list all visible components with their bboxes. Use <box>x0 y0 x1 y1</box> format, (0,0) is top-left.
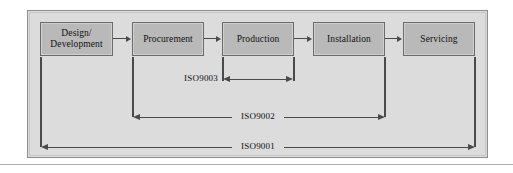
dimension-label-iso9001: ISO9001 <box>232 140 284 152</box>
process-box-design-development: Design/ Development <box>40 22 113 56</box>
process-label-production: Production <box>237 34 280 45</box>
process-label-line2: Development <box>50 39 102 50</box>
process-label-line1: Design/ <box>50 28 102 39</box>
process-label-servicing: Servicing <box>420 34 457 45</box>
connector-arrow-2 <box>204 34 222 43</box>
figure-bottom-rule <box>0 164 513 165</box>
dimension-iso9002: ISO9002 <box>132 111 386 123</box>
process-label-installation: Installation <box>327 34 371 45</box>
leader-line-design-left <box>40 57 42 147</box>
process-box-production: Production <box>222 22 294 56</box>
connector-arrow-4 <box>385 34 403 43</box>
leader-line-servicing-right <box>474 57 476 147</box>
diagram-panel: Design/ Development Procurement Producti… <box>27 10 488 158</box>
connector-arrow-1 <box>113 34 132 43</box>
leader-line-procurement-left <box>132 57 134 117</box>
process-box-procurement: Procurement <box>132 22 204 56</box>
process-label-procurement: Procurement <box>143 34 193 45</box>
dimension-iso9003: ISO9003 <box>176 73 296 85</box>
process-box-servicing: Servicing <box>403 22 475 56</box>
iso9000-scope-diagram: Design/ Development Procurement Producti… <box>0 0 513 173</box>
process-box-installation: Installation <box>313 22 385 56</box>
connector-arrow-3 <box>294 34 313 43</box>
dimension-label-iso9002: ISO9002 <box>232 110 284 122</box>
leader-line-installation-right <box>384 57 386 117</box>
dimension-iso9001: ISO9001 <box>40 141 476 153</box>
dimension-label-iso9003: ISO9003 <box>176 72 218 84</box>
